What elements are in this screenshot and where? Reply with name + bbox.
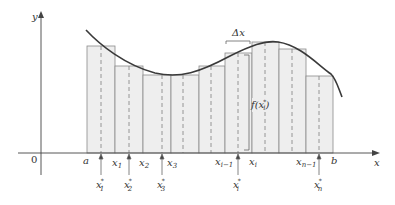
x-axis-arrow-icon xyxy=(372,150,380,156)
label-b: b xyxy=(331,155,337,166)
sample-label-xn-star: x*n xyxy=(314,177,323,193)
x-axis-label: x xyxy=(374,157,380,168)
rectangle-8 xyxy=(279,49,306,153)
label-xi-minus-1: xi−1 xyxy=(215,156,233,169)
f-of-xi-star-label: f(x*i) xyxy=(250,98,270,112)
sample-label-x2-star: x*2 xyxy=(124,177,133,193)
rectangle-4 xyxy=(171,75,199,153)
y-axis-arrow-icon xyxy=(38,11,44,18)
rectangle-n xyxy=(306,76,333,153)
label-xn-minus-1: xn−1 xyxy=(296,156,316,169)
delta-x-label: Δx xyxy=(231,27,245,38)
label-x3: x3 xyxy=(167,157,178,170)
sample-point-arrows xyxy=(99,154,321,175)
rectangle-3 xyxy=(143,75,171,153)
y-axis-label: y xyxy=(31,11,38,22)
sample-label-x1-star: x*1 xyxy=(96,177,104,193)
riemann-rectangles xyxy=(87,42,333,153)
rectangle-i xyxy=(225,53,252,153)
origin-label: 0 xyxy=(31,154,37,165)
label-xi: xi xyxy=(249,156,257,169)
label-x2: x2 xyxy=(139,157,150,170)
riemann-sum-diagram: y x 0 a x1 x2 x3 xi−1 xi xn−1 b x*1 x*2 … xyxy=(0,0,395,205)
rectangle-5 xyxy=(199,66,225,153)
label-x1: x1 xyxy=(112,157,122,170)
sample-label-xi-star: x*i xyxy=(233,177,241,193)
sample-label-x3-star: x*3 xyxy=(157,177,166,193)
delta-x-bracket xyxy=(226,41,250,44)
label-a: a xyxy=(83,155,89,166)
